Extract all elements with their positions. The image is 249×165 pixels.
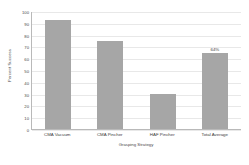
x-axis-tick-label: HAF Pincher	[136, 132, 189, 137]
bar-value-label: 64%	[210, 47, 219, 52]
x-axis-title: Grasping Strategy	[31, 142, 241, 147]
y-axis-tick-label: 80	[24, 33, 29, 38]
y-axis-tick-label: 100	[22, 10, 29, 15]
y-axis-tick-label: 40	[24, 80, 29, 85]
bar	[150, 94, 176, 129]
bar-chart-figure: Percent Success 1009080706050403020100 6…	[0, 0, 249, 165]
y-axis-tick-label: 50	[24, 69, 29, 74]
bar-slot	[32, 12, 84, 129]
x-axis-tick-labels: CMA VacuumCMA PincherHAF PincherTotal Av…	[31, 132, 241, 137]
y-axis-tick-label: 30	[24, 92, 29, 97]
y-axis-tick-label: 60	[24, 57, 29, 62]
x-axis-tick-label: Total Average	[189, 132, 242, 137]
bar	[97, 41, 123, 130]
bar-slot: 64%	[189, 12, 241, 129]
bar-slot	[84, 12, 136, 129]
y-axis-tick-label: 20	[24, 104, 29, 109]
y-axis-tick-label: 10	[24, 116, 29, 121]
y-axis-tick-labels: 1009080706050403020100	[14, 12, 30, 130]
y-axis-tick-label: 90	[24, 21, 29, 26]
y-axis-title-text: Percent Success	[7, 49, 12, 82]
bar-slot	[137, 12, 189, 129]
gridline	[32, 130, 241, 131]
y-axis-tick-label: 0	[27, 128, 29, 133]
bar: 64%	[202, 53, 228, 129]
plot-area: 64%	[31, 12, 241, 130]
x-axis-tick-label: CMA Vacuum	[31, 132, 84, 137]
bars-layer: 64%	[32, 12, 241, 129]
y-axis-tick-label: 70	[24, 45, 29, 50]
x-axis-tick-label: CMA Pincher	[84, 132, 137, 137]
bar	[45, 20, 71, 129]
